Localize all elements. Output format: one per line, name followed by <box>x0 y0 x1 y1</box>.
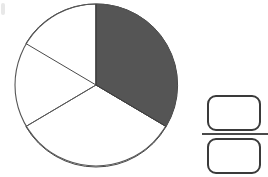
answer-box-top[interactable] <box>207 95 261 131</box>
worksheet-page <box>0 0 268 177</box>
answer-divider-line <box>202 133 268 135</box>
answer-box-bottom[interactable] <box>207 138 261 174</box>
answer-box-group <box>200 92 268 177</box>
pie-chart-svg <box>0 0 192 177</box>
pie-slice-unshaded-left[interactable] <box>26 4 96 85</box>
pie-chart-figure <box>0 0 192 177</box>
